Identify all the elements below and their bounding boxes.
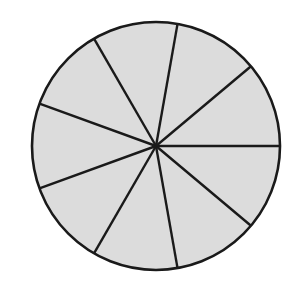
pie-chart-svg bbox=[0, 0, 292, 288]
fraction-circle-figure bbox=[0, 0, 292, 288]
